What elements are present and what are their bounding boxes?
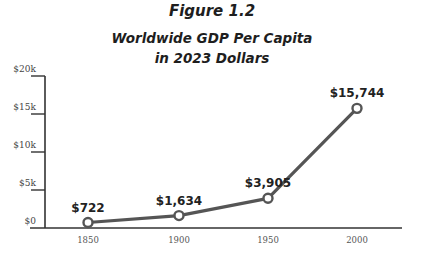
- data-point-marker: [84, 218, 93, 227]
- data-point-marker: [264, 194, 273, 203]
- data-point-marker: [175, 211, 184, 220]
- data-labels: $722$1,634$3,905$15,744: [71, 86, 384, 214]
- y-axis-ticks: $0$5k$10k$15k$20k: [13, 64, 45, 226]
- data-point-label: $1,634: [156, 194, 202, 208]
- y-tick-label: $5k: [19, 178, 36, 188]
- y-tick-label: $15k: [13, 102, 36, 112]
- data-point-label: $15,744: [330, 86, 385, 100]
- y-tick-label: $0: [25, 216, 37, 226]
- x-tick-label: 2000: [346, 235, 368, 245]
- x-axis-ticks: 1850190019502000: [77, 235, 368, 245]
- x-tick-label: 1900: [168, 235, 190, 245]
- series-line: [88, 108, 357, 222]
- y-tick-label: $20k: [13, 64, 36, 74]
- y-tick-label: $10k: [13, 140, 36, 150]
- x-tick-label: 1850: [77, 235, 99, 245]
- data-point-label: $3,905: [245, 176, 291, 190]
- data-point-label: $722: [71, 201, 104, 215]
- data-point-marker: [353, 104, 362, 113]
- line-chart: $0$5k$10k$15k$20k 1850190019502000 $722$…: [0, 0, 424, 256]
- x-tick-label: 1950: [257, 235, 279, 245]
